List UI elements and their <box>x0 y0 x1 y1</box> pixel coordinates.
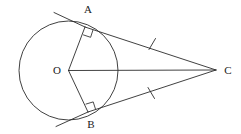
geometry-canvas: O A B C <box>0 0 241 134</box>
tangent-segment-BC <box>88 70 216 112</box>
tangent-extension-past-A <box>54 13 85 28</box>
congruence-tick-on-BC <box>148 88 155 99</box>
label-external-point-C: C <box>224 64 231 76</box>
right-angle-marker-at-A <box>83 30 93 37</box>
right-angle-marker-at-B <box>86 102 96 110</box>
radius-segment-OB <box>69 71 89 113</box>
geometry-figure: O A B C <box>0 0 241 134</box>
congruence-tick-on-AC <box>149 39 156 50</box>
tangent-segment-AC <box>85 27 216 70</box>
label-tangent-point-B: B <box>87 118 94 130</box>
segment-OC <box>69 70 217 71</box>
label-tangent-point-A: A <box>84 3 92 15</box>
label-center-O: O <box>53 64 61 76</box>
radius-segment-OA <box>69 27 86 71</box>
